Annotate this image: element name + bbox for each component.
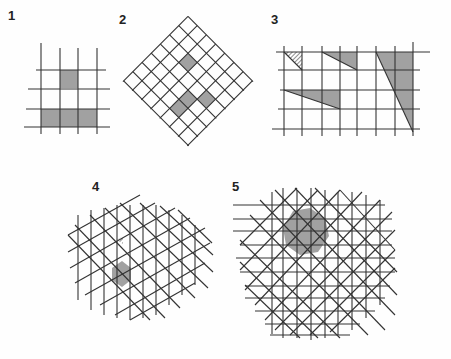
panel-2-grid [123, 16, 253, 146]
panel-1-grid [24, 43, 110, 134]
figure-graphics [0, 0, 451, 359]
panel-4-grid [68, 195, 213, 320]
panel-3-grid [272, 42, 430, 136]
panel-5-grid [233, 188, 397, 340]
figure: 1 2 3 4 5 [0, 0, 451, 359]
